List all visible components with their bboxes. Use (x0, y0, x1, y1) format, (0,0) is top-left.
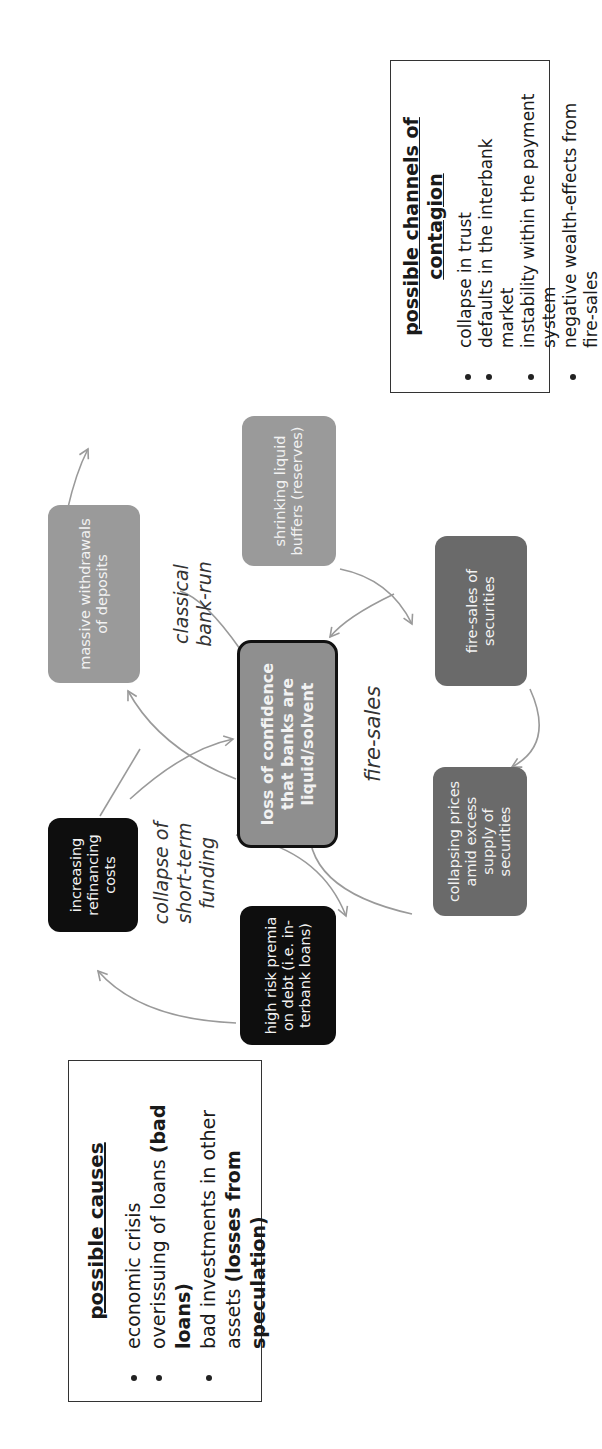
cause-item: overissuing of loans (bad loans) (146, 1079, 196, 1349)
node-high-risk-premia: high risk premia on debt (i.e. in-terban… (240, 906, 336, 1045)
cause-item: bad investments in other assets (losses … (196, 1079, 271, 1349)
contagion-item: instability within the payment system (518, 75, 560, 348)
label-classical-bank-run: classical bank-run (170, 549, 216, 659)
node-fire-sales-of-securities: fire-sales of securities (435, 536, 527, 686)
node-collapsing-prices: collapsing prices amid excess supply of … (433, 767, 527, 916)
node-shrinking-liquid-buffers: shrinking liquid buffers (reserves) (242, 416, 336, 566)
possible-causes-title: possible causes (83, 1079, 109, 1383)
contagion-item: defaults in the interbank market (476, 75, 518, 348)
contagion-list: collapse in trust defaults in the interb… (455, 75, 602, 378)
possible-causes-box: possible causes economic crisis overissu… (68, 1060, 262, 1402)
label-fire-sales: fire-sales (362, 679, 385, 789)
node-massive-withdrawals: massive withdrawals of deposits (48, 505, 140, 683)
cause-item: economic crisis (121, 1079, 146, 1349)
contagion-item: negative wealth-effects from fire-sales (560, 75, 602, 348)
contagion-item: collapse in trust (455, 75, 476, 348)
channels-of-contagion-box: possible channels of contagion collapse … (390, 60, 550, 393)
channels-of-contagion-title: possible channels of contagion (399, 75, 447, 378)
center-node-loss-of-confidence: loss of confidence that banks are liquid… (237, 640, 338, 848)
label-collapse-of-short-term-funding: collapse of short-term funding (150, 809, 219, 937)
causes-list: economic crisis overissuing of loans (ba… (121, 1079, 271, 1383)
node-increasing-refinancing-costs: increasing refinancing costs (48, 818, 138, 932)
